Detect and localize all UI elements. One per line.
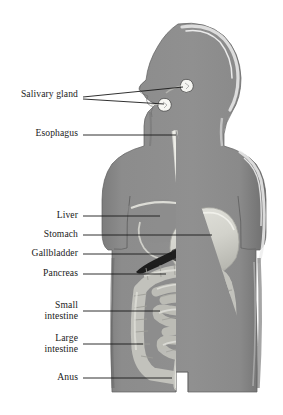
anatomy-illustration — [0, 0, 283, 415]
label-liver: Liver — [57, 210, 78, 221]
label-anus: Anus — [57, 372, 78, 383]
label-large-intestine: Large intestine — [45, 333, 78, 354]
label-salivary-gland: Salivary gland — [21, 89, 78, 100]
label-stomach: Stomach — [44, 229, 78, 240]
label-pancreas: Pancreas — [43, 268, 78, 279]
body-silhouette — [102, 23, 266, 392]
label-small-intestine: Small intestine — [45, 300, 78, 321]
label-esophagus: Esophagus — [36, 128, 78, 139]
label-gallbladder: Gallbladder — [32, 248, 78, 259]
digestive-system-diagram: Salivary gland Esophagus Liver Stomach G… — [0, 0, 283, 415]
